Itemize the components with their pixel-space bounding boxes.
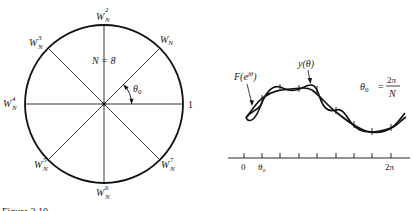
svg-text:=: = (378, 81, 384, 92)
axis-label-zero: 0 (241, 162, 246, 172)
arrowhead-icon (308, 78, 313, 84)
root-label-2-sub: N (104, 16, 110, 24)
root-label-6-sup: 6 (105, 184, 109, 192)
one-label: 1 (188, 99, 193, 110)
curve-diagram: F(ejθ) y(θ) θ0 = 2π N (228, 58, 410, 173)
root-label-7-sup: 7 (170, 156, 174, 164)
unit-circle-diagram: θ0 N = 8 1 WN W 2 N W 3 N W 4 N W 5 N W … (3, 6, 193, 201)
figure: θ0 N = 8 1 WN W 2 N W 3 N W 4 N W 5 N W … (0, 0, 413, 211)
x-axis: 0 θo 2π (228, 153, 410, 173)
root-label-7-sub: N (169, 165, 175, 173)
axis-ticks (244, 153, 391, 158)
curve-f (246, 88, 405, 132)
root-label-6-sub: N (104, 193, 110, 201)
root-label-3-sub: N (37, 43, 43, 51)
center-dot (102, 102, 106, 106)
axis-label-theta0: θo (258, 162, 265, 173)
figure-caption: Figure 2.10 (2, 206, 48, 211)
root-label-3-sup: 3 (38, 34, 42, 42)
root-label-5-sub: N (42, 165, 48, 173)
curve-y-label: y(θ) (297, 58, 315, 70)
curve-f-label: F(ejθ) (233, 70, 257, 83)
svg-text:2π: 2π (387, 75, 397, 85)
arrowhead-icon (250, 100, 255, 106)
root-label-4-sup: 4 (12, 95, 16, 103)
svg-text:N: N (388, 88, 397, 99)
svg-text:θ0: θ0 (360, 81, 369, 94)
curve-y (246, 85, 406, 132)
root-label-5-sup: 5 (43, 156, 47, 164)
axis-label-2pi: 2π (385, 162, 395, 172)
n-equals-label: N = 8 (91, 55, 115, 66)
root-label-1: WN (160, 34, 173, 47)
root-label-4-sub: N (11, 104, 17, 112)
root-label-2-sup: 2 (105, 6, 109, 14)
theta0-formula: θ0 = 2π N (360, 75, 400, 99)
arrowhead-icon (129, 99, 133, 105)
theta0-label: θ0 (133, 83, 142, 96)
